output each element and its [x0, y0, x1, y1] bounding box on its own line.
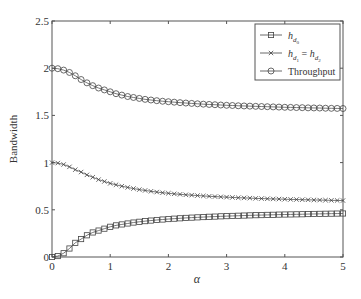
x-tick-label: 1 — [107, 260, 113, 272]
y-tick-label: 2.5 — [35, 15, 49, 27]
series-layer — [49, 65, 346, 259]
x-tick-label: 5 — [340, 260, 346, 272]
y-tick-label: 0.5 — [35, 204, 49, 216]
x-axis-label: α — [194, 272, 201, 286]
x-tick-label: 3 — [224, 260, 230, 272]
y-tick-label: 0 — [44, 251, 50, 263]
line-chart: 01234500.511.522.5 hd0hd1 = hd2Throughpu… — [0, 0, 361, 299]
y-tick-label: 1 — [44, 157, 50, 169]
y-tick-label: 2 — [44, 62, 50, 74]
x-tick-label: 2 — [166, 260, 172, 272]
series-line — [52, 163, 343, 201]
legend: hd0hd1 = hd2Throughput — [255, 24, 340, 80]
x-tick-label: 0 — [49, 260, 55, 272]
y-axis-label: Bandwidth — [7, 114, 19, 163]
x-tick-label: 4 — [282, 260, 288, 272]
y-tick-label: 1.5 — [35, 109, 49, 121]
legend-label: Throughput — [288, 66, 335, 77]
series-x — [50, 160, 345, 202]
series-square — [49, 211, 345, 260]
